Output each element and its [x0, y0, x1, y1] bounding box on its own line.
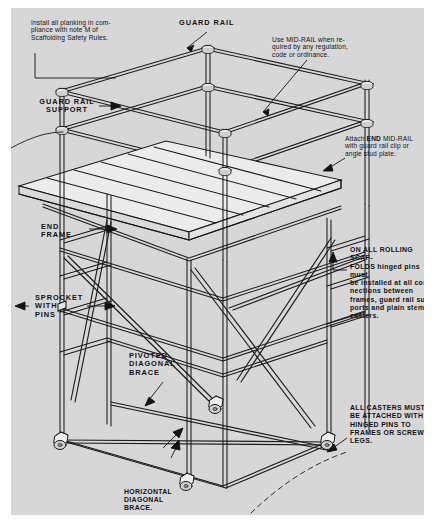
illustration-page: Install all planking in com- pliance wit… — [0, 0, 436, 532]
horizontal-diagonal-brace — [63, 402, 331, 488]
end-mid-rail-emphasis: END — [367, 135, 381, 142]
tower-ledgers — [60, 248, 365, 377]
annotation-casters: ALL CASTERS MUST BE ATTACHED WITH HINGED… — [350, 404, 424, 445]
scan-sheet: Install all planking in com- pliance wit… — [11, 8, 424, 515]
annotation-planking: Install all planking in com- pliance wit… — [31, 19, 143, 41]
annotation-sprocket: SPROCKET WITH PINS — [35, 294, 97, 319]
annotation-pivoted-brace: PIVOTED DIAGONAL BRACE — [129, 352, 199, 377]
annotation-end-frame: END FRAME — [41, 223, 95, 240]
annotation-guard-rail: GUARD RAIL — [179, 19, 234, 27]
annotation-end-mid-rail: Attach END MID-RAIL with guard rail clip… — [345, 135, 424, 157]
horizontal-brace-title: HORIZONTAL DIAGONAL BRACE. — [124, 488, 188, 513]
end-mid-rail-pre: Attach — [345, 135, 367, 142]
annotation-guard-rail-support: GUARD RAIL SUPPORT — [27, 98, 107, 115]
annotation-rolling-scaffolds: ON ALL ROLLING SCAF- FOLDS hinged pins m… — [350, 246, 424, 321]
annotation-horizontal-brace: HORIZONTAL DIAGONAL BRACE. Install as lo… — [124, 470, 188, 515]
annotation-mid-rail: Use MID-RAIL when re- quired by any regu… — [272, 36, 377, 58]
